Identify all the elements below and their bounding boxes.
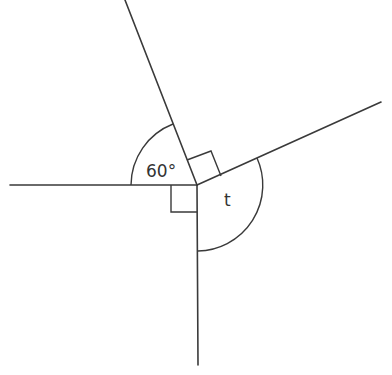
ray-upper: [125, 0, 197, 185]
angle-label-60: 60°: [146, 161, 176, 181]
right-angle-marker-bottom-left: [171, 185, 197, 212]
angle-label-t: t: [224, 190, 231, 210]
ray-right: [197, 102, 381, 185]
ray-bottom: [197, 185, 198, 365]
angle-diagram: 60° t: [0, 0, 392, 375]
